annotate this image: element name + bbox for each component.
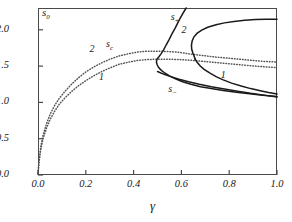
curve-label: 2 xyxy=(89,43,94,54)
curve-label: s+ xyxy=(171,11,180,25)
y-tick-label: 2.0 xyxy=(0,23,9,34)
x-axis-label: γ xyxy=(150,198,155,214)
figure: 0.00.51.01.52.0 0.00.20.40.60.81.0 s+2sc… xyxy=(0,0,292,222)
x-tick-label: 0.4 xyxy=(114,178,154,189)
curve-label: s− xyxy=(168,83,177,97)
y-axis-label: s0 xyxy=(42,6,50,21)
y-tick-label: 0.5 xyxy=(0,132,9,143)
plot-area xyxy=(38,8,277,175)
x-tick-label: 0.8 xyxy=(209,178,249,189)
y-tick-label: 1.5 xyxy=(0,59,9,70)
curve-label: 1 xyxy=(221,69,226,80)
y-tick-label: 1.0 xyxy=(0,95,9,106)
y-tick-label: 0.0 xyxy=(0,168,9,179)
curve-label: 1 xyxy=(99,71,104,82)
curve-label: sc xyxy=(106,38,113,52)
tick-marks-layer xyxy=(38,8,277,175)
x-tick-label: 1.0 xyxy=(257,178,292,189)
x-tick-label: 0.2 xyxy=(66,178,106,189)
curve-label: 2 xyxy=(181,24,186,35)
x-tick-label: 0.6 xyxy=(161,178,201,189)
x-tick-label: 0.0 xyxy=(18,178,58,189)
